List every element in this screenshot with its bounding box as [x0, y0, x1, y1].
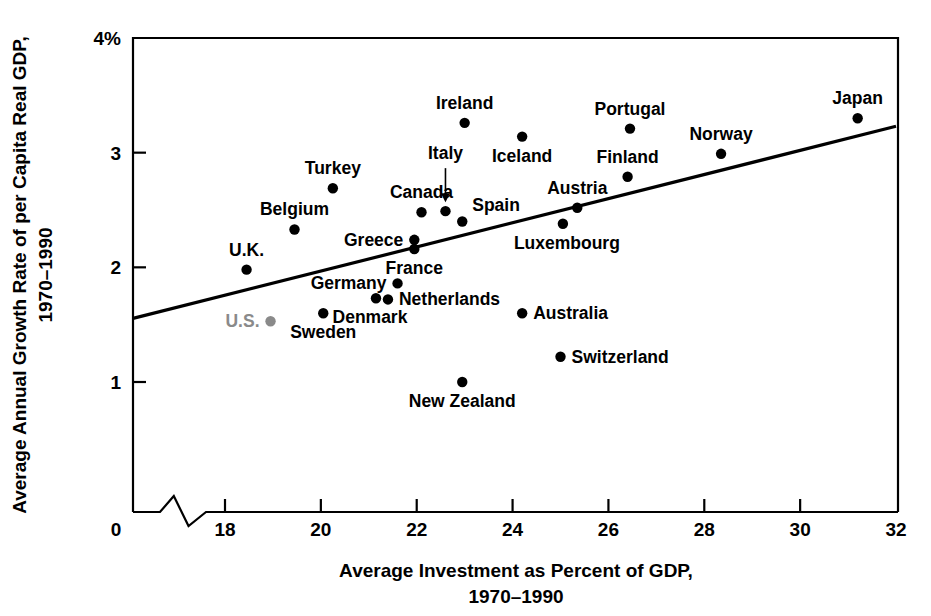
x-axis-title-line2: 1970–1990: [468, 586, 563, 607]
data-point-germany: [392, 278, 402, 288]
data-point-switzerland: [555, 352, 565, 362]
point-label-portugal: Portugal: [595, 99, 666, 119]
y-tick-label: 4%: [94, 28, 122, 49]
x-axis-title-line1: Average Investment as Percent of GDP,: [339, 560, 693, 581]
point-label-luxembourg: Luxembourg: [514, 233, 620, 253]
point-label-spain: Spain: [472, 195, 520, 215]
data-point-turkey: [328, 183, 338, 193]
point-label-new-zealand: New Zealand: [409, 391, 516, 411]
data-point-denmark: [371, 293, 381, 303]
point-label-austria: Austria: [547, 178, 608, 198]
point-label-turkey: Turkey: [305, 158, 361, 178]
y-axis-title-line1: Average Annual Growth Rate of per Capita…: [9, 36, 30, 514]
point-label-iceland: Iceland: [492, 146, 552, 166]
x-tick-label: 32: [885, 519, 906, 540]
data-point-u-k: [241, 264, 251, 274]
point-label-finland: Finland: [596, 147, 658, 167]
x-tick-label: 26: [598, 519, 619, 540]
point-label-greece: Greece: [344, 230, 404, 250]
x-tick-label: 24: [502, 519, 524, 540]
point-label-italy: Italy: [428, 143, 463, 163]
scatter-plot: 0 1820222426283032 1234% U.K.BelgiumU.S.…: [0, 0, 931, 616]
point-label-netherlands: Netherlands: [399, 289, 500, 309]
y-tick-label: 3: [110, 143, 121, 164]
x-axis-origin-label: 0: [111, 519, 122, 540]
y-tick-label: 1: [110, 372, 121, 393]
data-point-france: [409, 244, 419, 254]
point-label-france: France: [386, 258, 444, 278]
data-point-finland: [622, 172, 632, 182]
y-axis-title-line2: 1970–1990: [35, 227, 56, 322]
point-label-sweden: Sweden: [290, 322, 356, 342]
data-point-sweden: [318, 308, 328, 318]
point-label-u-s: U.S.: [225, 311, 259, 331]
y-tick-label: 2: [110, 257, 121, 278]
chart-figure: 0 1820222426283032 1234% U.K.BelgiumU.S.…: [0, 0, 931, 616]
data-point-luxembourg: [558, 219, 568, 229]
x-tick-label: 22: [406, 519, 427, 540]
data-point-u-s: [265, 316, 275, 326]
x-tick-label: 20: [310, 519, 331, 540]
data-point-iceland: [517, 131, 527, 141]
data-point-australia: [517, 308, 527, 318]
point-label-u-k: U.K.: [229, 240, 264, 260]
point-label-norway: Norway: [689, 124, 752, 144]
data-point-greece: [409, 235, 419, 245]
data-point-norway: [716, 149, 726, 159]
point-label-canada: Canada: [390, 182, 453, 202]
point-label-switzerland: Switzerland: [572, 347, 669, 367]
data-point-new-zealand: [457, 377, 467, 387]
x-tick-label: 30: [790, 519, 811, 540]
x-tick-label: 28: [694, 519, 715, 540]
data-point-austria: [572, 203, 582, 213]
point-label-belgium: Belgium: [260, 199, 329, 219]
data-point-portugal: [625, 123, 635, 133]
point-label-germany: Germany: [311, 273, 387, 293]
point-label-ireland: Ireland: [436, 93, 493, 113]
data-point-ireland: [459, 118, 469, 128]
data-point-belgium: [289, 224, 299, 234]
data-point-netherlands: [383, 294, 393, 304]
data-point-spain: [457, 216, 467, 226]
x-tick-label: 18: [214, 519, 235, 540]
data-point-canada: [416, 207, 426, 217]
point-label-australia: Australia: [533, 303, 608, 323]
point-label-japan: Japan: [832, 88, 883, 108]
data-point-japan: [852, 113, 862, 123]
data-point-italy: [440, 206, 450, 216]
